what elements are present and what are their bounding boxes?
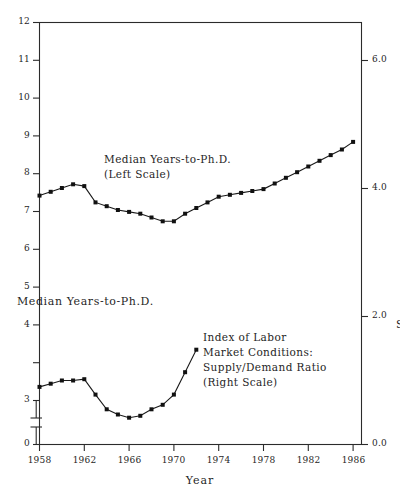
right-axis-ticks bbox=[362, 61, 369, 445]
xtick-1962: 1962 bbox=[64, 455, 105, 465]
ytick-left-10: 10 bbox=[2, 92, 30, 102]
annotation-supply-demand-line3: Supply/Demand Ratio bbox=[203, 360, 327, 375]
ytick-left-8: 8 bbox=[2, 167, 30, 177]
ytick-left-7: 7 bbox=[2, 205, 30, 215]
chart-canvas bbox=[0, 0, 400, 494]
ytick-right-4: 4.0 bbox=[372, 182, 387, 192]
xtick-1978: 1978 bbox=[243, 455, 284, 465]
x-axis-ticks bbox=[40, 445, 354, 452]
ytick-right-0: 0.0 bbox=[372, 438, 387, 448]
left-axis-ticks bbox=[33, 23, 40, 445]
ytick-right-2: 2.0 bbox=[372, 310, 387, 320]
y-axis-title-right: Supply/Demand Ratio bbox=[396, 318, 400, 331]
xtick-1966: 1966 bbox=[109, 455, 150, 465]
plot-frame bbox=[40, 23, 362, 445]
ytick-left-6: 6 bbox=[2, 243, 30, 253]
xtick-1974: 1974 bbox=[198, 455, 239, 465]
series-supply-markers bbox=[38, 348, 199, 420]
left-axis-break bbox=[31, 401, 43, 445]
ytick-left-4: 4 bbox=[2, 319, 30, 329]
xtick-1986: 1986 bbox=[333, 455, 374, 465]
series-supply-demand-ratio bbox=[38, 348, 199, 420]
ytick-left-0: 0 bbox=[2, 438, 30, 448]
ytick-right-6: 6.0 bbox=[372, 54, 387, 64]
ytick-left-11: 11 bbox=[2, 54, 30, 64]
annotation-supply-demand-line1: Index of Labor bbox=[203, 330, 287, 345]
xtick-1970: 1970 bbox=[153, 455, 194, 465]
annotation-median-years-line1: Median Years-to-Ph.D. bbox=[104, 152, 231, 167]
chart-figure: 12 11 10 9 8 7 6 5 4 3 0 6.0 4.0 2.0 0.0… bbox=[0, 0, 400, 494]
xtick-1982: 1982 bbox=[288, 455, 329, 465]
ytick-left-5: 5 bbox=[2, 281, 30, 291]
annotation-supply-demand-line2: Market Conditions: bbox=[203, 345, 313, 360]
ytick-left-3: 3 bbox=[2, 394, 30, 404]
x-axis-title: Year bbox=[160, 474, 240, 487]
xtick-1958: 1958 bbox=[19, 455, 60, 465]
annotation-median-years-line2: (Left Scale) bbox=[104, 167, 171, 182]
y-axis-title-left: Median Years-to-Ph.D. bbox=[17, 295, 154, 308]
ytick-left-9: 9 bbox=[2, 130, 30, 140]
ytick-left-12: 12 bbox=[2, 16, 30, 26]
annotation-supply-demand-line4: (Right Scale) bbox=[203, 375, 278, 390]
